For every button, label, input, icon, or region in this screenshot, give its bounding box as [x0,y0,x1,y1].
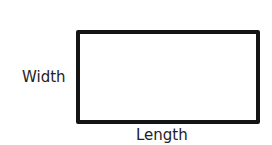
rectangle-shape [76,30,260,124]
width-label: Width [22,70,66,85]
length-label: Length [136,128,188,143]
